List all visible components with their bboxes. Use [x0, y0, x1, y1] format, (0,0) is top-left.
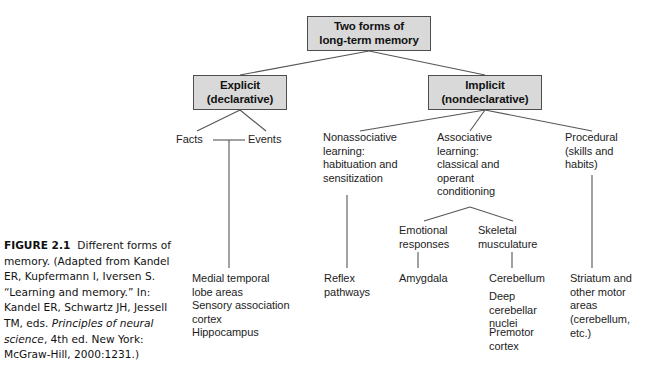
edge-explicit-facts	[197, 110, 240, 131]
label-associative-learning: Associative learning: classical and oper…	[437, 131, 499, 199]
label-sensory-association-cortex: Sensory association cortex	[192, 299, 290, 326]
edge-associative-skeletal	[470, 207, 513, 221]
node-two-forms-long-term-memory[interactable]: Two forms of long-term memory	[307, 16, 431, 51]
figure-container: Two forms of long-term memory Explicit (…	[0, 0, 654, 382]
caption-text-part1: Different forms of memory. (Adapted from…	[4, 239, 171, 329]
label-deep-cerebellar-nuclei: Deep cerebellar nuclei	[489, 290, 537, 331]
edge-implicit-nonassociative	[360, 110, 485, 131]
node-root-line2: long-term memory	[319, 34, 418, 48]
label-striatum-other-motor-areas: Striatum and other motor areas	[570, 272, 632, 313]
label-cerebellum: Cerebellum	[489, 272, 545, 286]
label-reflex-pathways: Reflex pathways	[324, 272, 370, 299]
label-emotional-responses: Emotional responses	[399, 224, 449, 251]
label-skeletal-musculature: Skeletal musculature	[478, 224, 537, 251]
edge-associative-emotional	[424, 207, 470, 221]
edge-implicit-associative	[470, 110, 485, 131]
edge-implicit-procedural	[485, 110, 592, 131]
node-explicit-line2: (declarative)	[207, 93, 273, 107]
label-hippocampus: Hippocampus	[192, 326, 259, 340]
figure-caption: FIGURE 2.1Different forms of memory. (Ad…	[4, 238, 176, 363]
label-events: Events	[248, 133, 281, 147]
label-striatum-parenthetical: (cerebellum, etc.)	[570, 313, 630, 340]
label-facts: Facts	[176, 133, 203, 147]
node-implicit-nondeclarative[interactable]: Implicit (nondeclarative)	[428, 75, 542, 110]
label-medial-temporal-lobe-areas: Medial temporal lobe areas	[192, 272, 270, 299]
node-explicit-declarative[interactable]: Explicit (declarative)	[193, 75, 287, 110]
node-implicit-line2: (nondeclarative)	[441, 93, 528, 107]
edge-explicit-events	[240, 110, 266, 131]
node-explicit-line1: Explicit	[220, 79, 260, 93]
edge-root-explicit	[240, 51, 369, 75]
figure-number: FIGURE 2.1	[4, 239, 70, 251]
edge-root-implicit	[369, 51, 485, 75]
label-nonassociative-learning: Nonassociative learning: habituation and…	[323, 131, 397, 185]
label-procedural: Procedural (skills and habits)	[565, 131, 618, 172]
node-root-line1: Two forms of	[334, 20, 404, 34]
label-premotor-cortex: Premotor cortex	[489, 326, 534, 353]
label-amygdala: Amygdala	[399, 272, 448, 286]
node-implicit-line1: Implicit	[465, 79, 504, 93]
